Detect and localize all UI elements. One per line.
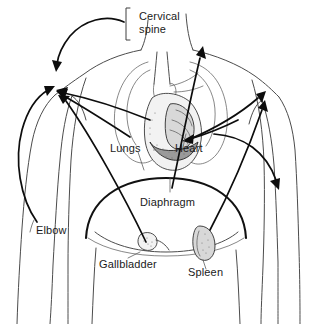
heart-organ-group: [144, 93, 201, 170]
spleen-body-shape: [193, 226, 215, 260]
torso-outline-group: [17, 14, 300, 324]
gallbladder-body-shape: [138, 233, 157, 251]
arrow-head-cervical-left: [52, 60, 62, 72]
spleen-organ-group: [193, 226, 215, 260]
abdomen-contour: [95, 232, 238, 252]
great-vessel-2: [174, 86, 203, 92]
label-spleen: Spleen: [188, 266, 223, 278]
arrow-diaphragm-to-right-shoulder: [210, 110, 262, 230]
referred-pain-figure: Cervical spine Lungs Heart Diaphragm Elb…: [0, 0, 316, 324]
arrow-head-diaphragm-left: [58, 95, 70, 104]
waist-left-line: [92, 248, 96, 324]
label-cervical-spine-line1: Cervical: [139, 10, 180, 22]
trachea-left-line: [154, 52, 157, 84]
trachea-right-line: [167, 52, 170, 84]
label-diaphragm: Diaphragm: [140, 196, 195, 208]
right-arm-outer-line: [279, 97, 300, 324]
cervical-spine-bracket-group: [126, 8, 130, 40]
label-lungs: Lungs: [110, 142, 141, 154]
gallbladder-neck-duct: [156, 240, 169, 250]
left-shoulder-line: [55, 50, 141, 95]
diaphragm-lower-edge: [88, 238, 244, 256]
label-elbow: Elbow: [36, 224, 67, 236]
neck-right-line: [186, 14, 193, 50]
anatomy-diagram-canvas: Cervical spine Lungs Heart Diaphragm Elb…: [0, 0, 316, 324]
leader-lungs: [138, 152, 144, 170]
arrow-head-heart-upward: [196, 46, 206, 59]
label-heart: Heart: [175, 142, 203, 154]
label-gallbladder: Gallbladder: [99, 258, 157, 270]
right-shoulder-line: [193, 50, 279, 97]
cervical-spine-bracket: [126, 8, 130, 40]
waist-right-line: [236, 250, 240, 324]
arrow-head-elbow: [44, 86, 55, 96]
label-cervical-spine-line2: spine: [139, 23, 166, 35]
torso-left-side-line: [68, 78, 86, 324]
torso-right-side-line: [252, 80, 264, 324]
leader-elbow: [30, 220, 34, 232]
